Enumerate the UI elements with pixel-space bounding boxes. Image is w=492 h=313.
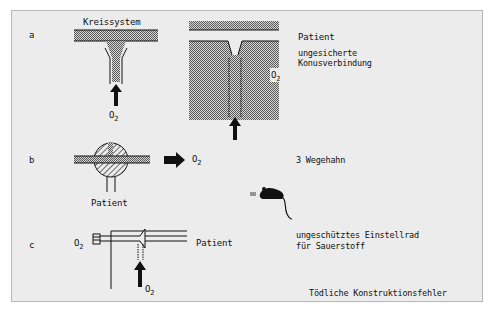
description-line: Konusverbindung — [298, 58, 372, 68]
panel-label-a: a — [29, 30, 34, 40]
patient-label: Patient — [91, 198, 128, 208]
oxygen-subscript: 2 — [197, 159, 201, 167]
arrow-up-icon — [110, 84, 122, 106]
oxygen-label: O2 — [145, 284, 154, 298]
three-way-valve — [74, 143, 185, 192]
panel-label-c: c — [29, 240, 34, 250]
description-line: ungesicherte — [298, 48, 357, 58]
three-way-valve-label: 3 Wegehahn — [296, 155, 345, 165]
oxygen-label: O2 — [109, 110, 118, 124]
oxygen-label: O2 — [74, 238, 83, 252]
circle-system-connector — [74, 30, 158, 106]
diagram-artwork — [0, 0, 492, 313]
oxygen-knob-assembly — [93, 229, 187, 289]
panel-label-b: b — [29, 155, 34, 165]
oxygen-label: O2 — [271, 70, 280, 84]
oxygen-subscript: 2 — [79, 243, 83, 251]
oxygen-label: O2 — [192, 154, 201, 168]
oxygen-subscript: 2 — [114, 115, 118, 123]
oxygen-subscript: 2 — [276, 75, 280, 83]
description-line: für Sauerstoff — [296, 241, 365, 251]
description-line: ungeschütztes Einstellrad — [296, 230, 419, 240]
patient-label: Patient — [196, 238, 233, 248]
figure-caption: Tödliche Konstruktionsfehler — [309, 288, 447, 298]
arrow-up-icon — [229, 117, 241, 140]
mouse-icon — [250, 187, 292, 219]
patient-label: Patient — [298, 32, 335, 42]
oxygen-subscript: 2 — [150, 289, 154, 297]
arrow-right-icon — [164, 152, 185, 168]
circle-system-label: Kreissystem — [83, 17, 140, 27]
